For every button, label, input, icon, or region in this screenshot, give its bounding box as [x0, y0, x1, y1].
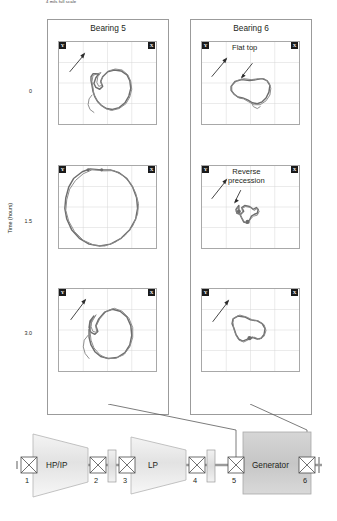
orbit-plot-b6-t0[interactable] — [201, 41, 300, 125]
y-tick-0: 0 — [10, 88, 32, 94]
x-probe-badge: X — [148, 42, 155, 49]
annotation-line-2: precession — [228, 176, 265, 185]
bearing-number-6: 6 — [303, 476, 307, 485]
bearing-number-4: 4 — [193, 476, 197, 485]
y-probe-badge: Y — [59, 289, 66, 296]
y-probe-badge: Y — [59, 42, 66, 49]
y-probe-badge: Y — [202, 166, 209, 173]
bearing-number-2: 2 — [94, 476, 98, 485]
panel-title-bearing-6: Bearing 6 — [191, 23, 311, 33]
x-probe-badge: X — [291, 166, 298, 173]
label-lp: LP — [148, 461, 158, 470]
orbit-plot-b6-t3[interactable] — [201, 288, 300, 372]
bearing-number-5: 5 — [232, 476, 236, 485]
x-probe-badge: X — [291, 42, 298, 49]
panel-title-bearing-5: Bearing 5 — [48, 23, 168, 33]
annotation-flat-top: Flat top — [232, 43, 257, 52]
coupling-1 — [108, 450, 116, 482]
figure-root: 4 mils full scale Time (hours) 0 1.5 3.0… — [0, 0, 337, 521]
y-probe-badge: Y — [202, 289, 209, 296]
label-generator: Generator — [252, 461, 289, 470]
label-hpip: HP/IP — [46, 461, 67, 470]
x-probe-badge: X — [291, 289, 298, 296]
y-tick-3.0: 3.0 — [10, 330, 32, 336]
x-probe-badge: X — [148, 166, 155, 173]
y-tick-1.5: 1.5 — [10, 218, 32, 224]
y-probe-badge: Y — [202, 42, 209, 49]
component-lp — [131, 437, 186, 494]
orbit-plot-b5-t1_5[interactable] — [58, 165, 157, 249]
y-probe-badge: Y — [59, 166, 66, 173]
bearing-number-3: 3 — [123, 476, 127, 485]
x-probe-badge: X — [148, 289, 155, 296]
orbit-plot-b5-t0[interactable] — [58, 41, 157, 125]
scale-note: 4 mils full scale — [46, 0, 76, 4]
bearing-number-1: 1 — [25, 476, 29, 485]
annotation-reverse-precession: Reverse precession — [228, 167, 265, 185]
orbit-plot-b5-t3[interactable] — [58, 288, 157, 372]
coupling-2 — [207, 450, 215, 482]
annotation-line-1: Reverse — [232, 167, 260, 176]
